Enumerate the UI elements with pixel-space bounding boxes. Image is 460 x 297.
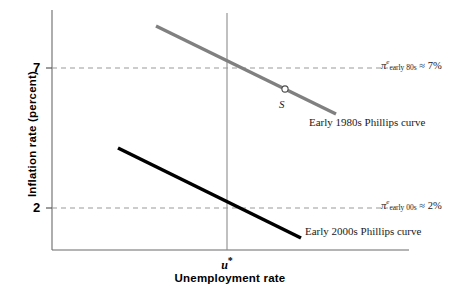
y-tick-label-2: 2	[33, 200, 40, 215]
chart-canvas	[0, 0, 460, 297]
pi-value-80s: ≈ 7%	[419, 60, 441, 71]
point-s-label: S	[279, 98, 285, 110]
curve-early-2000s	[118, 148, 301, 238]
curve-label-early-2000s: Early 2000s Phillips curve	[305, 225, 421, 237]
x-tick-label-natural-rate: u*	[205, 255, 249, 273]
pi-subscript-80s: early 80s	[389, 63, 416, 72]
u-symbol: u	[221, 258, 228, 272]
curve-early-1980s	[156, 26, 336, 114]
x-axis-title: Unemployment rate	[95, 272, 365, 284]
y-tick-label-7: 7	[33, 60, 40, 75]
y-axis-title-text: Inflation rate (percent)	[26, 71, 38, 197]
star-symbol: *	[228, 255, 233, 266]
annotation-expected-inflation-80s: πeearly 80s ≈ 7%	[381, 58, 442, 72]
phillips-curve-figure: Inflation rate (percent) Unemployment ra…	[0, 0, 460, 297]
curve-label-early-1980s: Early 1980s Phillips curve	[309, 116, 425, 128]
point-s-marker	[282, 86, 288, 92]
pi-value-00s: ≈ 2%	[419, 200, 441, 211]
pi-subscript-00s: early 00s	[389, 203, 416, 212]
annotation-expected-inflation-00s: πeearly 00s ≈ 2%	[381, 198, 442, 212]
